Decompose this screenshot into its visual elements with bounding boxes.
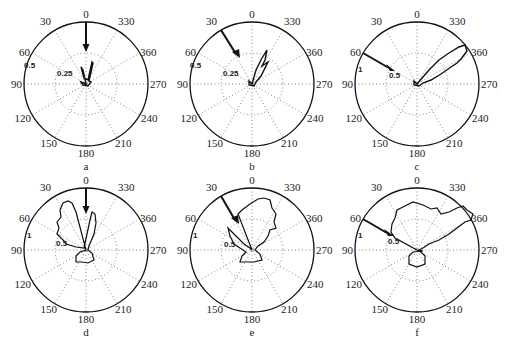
angle-label-210: 210 (115, 303, 132, 315)
angle-label-180: 180 (78, 313, 95, 325)
angle-label-360: 360 (306, 46, 323, 58)
angle-label-330: 330 (118, 181, 135, 193)
panel-label: d (83, 326, 89, 338)
radial-label-outer: 0.5 (190, 61, 202, 70)
angle-label-30: 30 (206, 15, 218, 27)
angle-label-120: 120 (15, 112, 32, 124)
angle-label-330: 330 (449, 181, 466, 193)
angle-label-330: 330 (284, 15, 301, 27)
angle-label-240: 240 (472, 112, 489, 124)
pointer-arrow (221, 30, 236, 54)
angle-label-90: 90 (342, 244, 354, 256)
angle-label-0: 0 (249, 8, 255, 20)
polar-curve (57, 201, 96, 263)
angle-label-270: 270 (481, 244, 498, 256)
angle-label-150: 150 (41, 137, 58, 149)
angle-label-60: 60 (350, 46, 362, 58)
panel-label: f (415, 326, 419, 338)
angle-label-150: 150 (207, 137, 224, 149)
angle-label-0: 0 (414, 8, 420, 20)
panel-e: 1 0.5 0 30 60 90 120 150 180 210 240 270… (177, 174, 333, 338)
angle-label-90: 90 (11, 78, 23, 90)
panel-label: e (250, 326, 255, 338)
arrow-head-icon (83, 44, 90, 52)
angle-label-240: 240 (307, 278, 324, 290)
angle-label-270: 270 (481, 78, 498, 90)
radial-label-outer: 1 (358, 65, 363, 74)
angle-label-210: 210 (281, 303, 298, 315)
angle-label-60: 60 (19, 212, 31, 224)
angle-label-240: 240 (141, 112, 158, 124)
angle-label-150: 150 (41, 303, 58, 315)
angle-label-150: 150 (207, 303, 224, 315)
angle-label-120: 120 (15, 278, 32, 290)
angle-label-270: 270 (150, 244, 167, 256)
angle-label-150: 150 (372, 137, 389, 149)
angle-label-210: 210 (281, 137, 298, 149)
angle-label-30: 30 (206, 181, 218, 193)
panel-label: c (415, 160, 420, 172)
angle-label-90: 90 (11, 244, 23, 256)
angle-label-90: 90 (177, 78, 189, 90)
angle-label-180: 180 (244, 147, 261, 159)
angle-label-60: 60 (185, 46, 197, 58)
angle-label-90: 90 (177, 244, 189, 256)
angle-label-30: 30 (40, 181, 52, 193)
radial-label-inner: 0.25 (223, 69, 239, 78)
panel-label: b (249, 160, 255, 172)
angle-label-120: 120 (181, 112, 198, 124)
angle-label-360: 360 (140, 46, 157, 58)
angle-label-60: 60 (350, 212, 362, 224)
panel-b: 0.5 0.25 0 30 60 90 120 150 180 210 240 … (177, 8, 333, 172)
angle-label-180: 180 (244, 313, 261, 325)
angle-label-0: 0 (249, 174, 255, 186)
pointer-arrow (221, 196, 235, 220)
angle-label-180: 180 (409, 313, 426, 325)
angle-label-270: 270 (316, 78, 333, 90)
angle-label-360: 360 (140, 212, 157, 224)
angle-label-0: 0 (83, 174, 89, 186)
radial-label-outer: 1 (358, 231, 363, 240)
angle-label-270: 270 (316, 244, 333, 256)
angle-label-30: 30 (371, 181, 383, 193)
angle-label-150: 150 (372, 303, 389, 315)
radial-label-inner: 0.5 (56, 239, 68, 248)
angle-label-90: 90 (342, 78, 354, 90)
panel-f: 1 0.5 0 30 60 90 120 150 180 210 240 270… (342, 174, 498, 338)
angle-label-360: 360 (471, 212, 488, 224)
angle-label-180: 180 (409, 147, 426, 159)
angle-label-270: 270 (150, 78, 167, 90)
panel-c: 1 0.5 0 30 60 90 120 150 180 210 240 270… (342, 8, 498, 172)
radial-label-outer: 0.5 (24, 61, 36, 70)
angle-label-0: 0 (414, 174, 420, 186)
pointer-arrow (363, 53, 389, 68)
radial-label-inner: 0.5 (389, 71, 401, 80)
radial-label-outer: 1 (193, 231, 198, 240)
radial-label-inner: 0.5 (224, 240, 236, 249)
polar-curve (391, 202, 473, 267)
angle-label-180: 180 (78, 147, 95, 159)
angle-label-360: 360 (306, 212, 323, 224)
angle-label-30: 30 (40, 15, 52, 27)
angle-label-240: 240 (472, 278, 489, 290)
angle-label-30: 30 (371, 15, 383, 27)
radial-label-inner: 0.5 (388, 237, 400, 246)
polar-figure: 0.5 0.25 0 30 60 90 120 150 180 210 240 … (0, 0, 505, 349)
angle-label-60: 60 (19, 46, 31, 58)
angle-label-120: 120 (346, 112, 363, 124)
angle-label-330: 330 (449, 15, 466, 27)
angle-label-210: 210 (115, 137, 132, 149)
angle-label-120: 120 (346, 278, 363, 290)
angle-label-0: 0 (83, 8, 89, 20)
pointer-arrow (363, 219, 387, 233)
angle-label-240: 240 (141, 278, 158, 290)
panel-d: 1 0.5 0 30 60 90 120 150 180 210 240 270… (11, 174, 167, 338)
radial-label-outer: 1 (27, 231, 32, 240)
panel-label: a (84, 160, 89, 172)
polar-curve (414, 45, 467, 86)
angle-label-240: 240 (307, 112, 324, 124)
angle-label-60: 60 (185, 212, 197, 224)
angle-label-210: 210 (446, 303, 463, 315)
angle-label-360: 360 (471, 46, 488, 58)
angle-label-330: 330 (118, 15, 135, 27)
